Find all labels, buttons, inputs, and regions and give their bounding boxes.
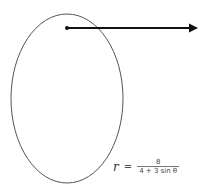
arrowhead-icon: [189, 24, 198, 33]
fraction-denominator: 4 + 3 sin θ: [137, 167, 179, 175]
polar-equation: r = 8 4 + 3 sin θ: [113, 158, 179, 175]
ellipse-curve: [11, 14, 123, 183]
origin-dot: [65, 26, 69, 30]
fraction-numerator: 8: [154, 158, 162, 166]
equals-sign: =: [124, 161, 132, 172]
equation-variable: r: [113, 160, 119, 174]
equation-fraction: 8 4 + 3 sin θ: [137, 158, 179, 175]
